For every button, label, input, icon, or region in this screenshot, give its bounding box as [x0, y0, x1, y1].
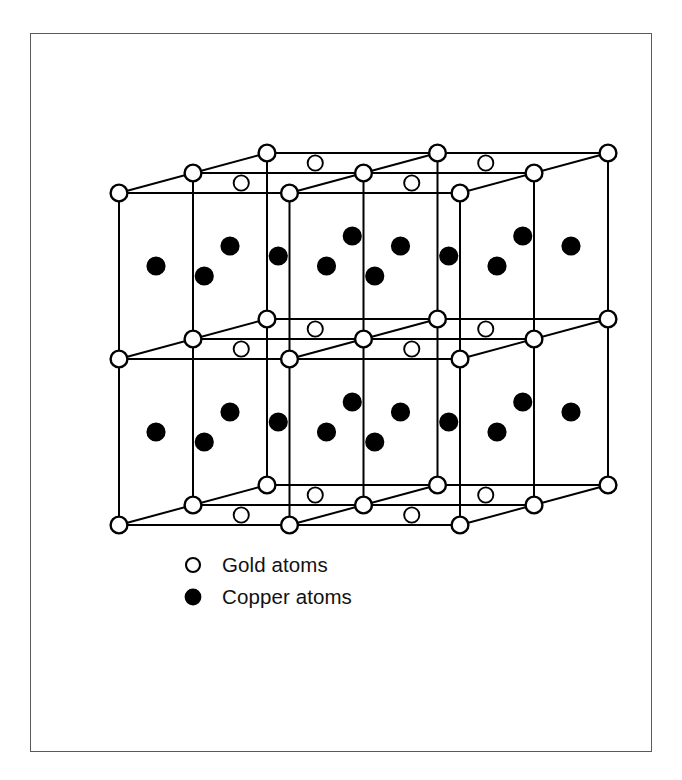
gold-atom [429, 477, 446, 494]
legend: Gold atoms Copper atoms [178, 549, 508, 613]
copper-atom [344, 394, 361, 411]
copper-atom [148, 258, 165, 275]
legend-label-copper: Copper atoms [208, 585, 352, 609]
gold-atom [478, 487, 493, 502]
lattice-diagram [0, 0, 682, 780]
gold-atom [600, 145, 617, 162]
open-circle-icon [178, 556, 208, 574]
gold-atom [526, 497, 543, 514]
gold-atom [185, 165, 202, 182]
gold-atom [308, 487, 323, 502]
gold-atom [600, 311, 617, 328]
gold-atom [452, 517, 469, 534]
gold-atom [111, 185, 128, 202]
copper-atom [196, 434, 213, 451]
copper-atom [222, 404, 239, 421]
copper-atom [392, 238, 409, 255]
copper-atom [514, 228, 531, 245]
copper-atom [489, 424, 506, 441]
gold-atom [259, 311, 276, 328]
gold-atom [355, 331, 372, 348]
gold-atom [355, 497, 372, 514]
copper-atom [270, 414, 287, 431]
gold-atom [308, 321, 323, 336]
gold-atom [526, 331, 543, 348]
copper-atom [318, 258, 335, 275]
gold-atom [404, 341, 419, 356]
copper-atom [196, 268, 213, 285]
copper-atom [366, 434, 383, 451]
gold-atom [281, 351, 298, 368]
gold-atom [111, 351, 128, 368]
copper-atom [563, 238, 580, 255]
legend-label-gold: Gold atoms [208, 553, 328, 577]
copper-atom [392, 404, 409, 421]
gold-atom [259, 477, 276, 494]
copper-atom [318, 424, 335, 441]
copper-atom [440, 414, 457, 431]
legend-item-copper: Copper atoms [178, 581, 508, 613]
copper-atom [148, 424, 165, 441]
gold-atom [452, 185, 469, 202]
gold-atom [281, 517, 298, 534]
copper-atom [489, 258, 506, 275]
gold-atom [234, 507, 249, 522]
gold-atom [478, 155, 493, 170]
filled-circle-icon [178, 588, 208, 606]
copper-atom [270, 248, 287, 265]
gold-atom [429, 311, 446, 328]
gold-atom [452, 351, 469, 368]
figure-page: Gold atoms Copper atoms [0, 0, 682, 780]
gold-atom [600, 477, 617, 494]
gold-atom [185, 331, 202, 348]
gold-atom [404, 507, 419, 522]
gold-atom [526, 165, 543, 182]
gold-atom [234, 341, 249, 356]
copper-atom [563, 404, 580, 421]
gold-atom [308, 155, 323, 170]
legend-item-gold: Gold atoms [178, 549, 508, 581]
gold-atom [111, 517, 128, 534]
gold-atom [259, 145, 276, 162]
gold-atom [281, 185, 298, 202]
copper-atom [222, 238, 239, 255]
gold-atom [185, 497, 202, 514]
gold-atom [234, 175, 249, 190]
copper-atom [440, 248, 457, 265]
copper-atom [366, 268, 383, 285]
copper-atom [514, 394, 531, 411]
gold-atom [478, 321, 493, 336]
gold-atom [355, 165, 372, 182]
gold-atom [404, 175, 419, 190]
crystal-lattice-figure [0, 0, 682, 780]
copper-atom [344, 228, 361, 245]
gold-atom [429, 145, 446, 162]
